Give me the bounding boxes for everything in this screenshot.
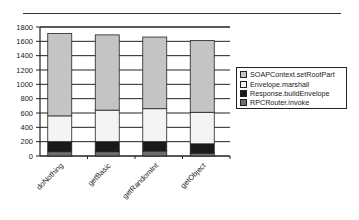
x-category-label: getRandomInt xyxy=(120,160,160,200)
y-tick-label: 1000 xyxy=(16,80,33,89)
x-category-label: getObject xyxy=(179,160,209,190)
legend-swatch-icon xyxy=(240,71,247,78)
y-tick-label: 1800 xyxy=(16,23,33,32)
y-tick-label: 1400 xyxy=(16,51,33,60)
bar-segment xyxy=(190,144,214,153)
bar-segment xyxy=(95,142,119,152)
y-tick-label: 1200 xyxy=(16,66,33,75)
bar-segment xyxy=(48,116,72,142)
y-tick-label: 400 xyxy=(20,123,33,132)
legend-label: SOAPContext.setRootPart xyxy=(250,70,335,79)
legend-item-soapcontext: SOAPContext.setRootPart xyxy=(240,70,343,79)
bar-segment xyxy=(143,151,167,156)
bar-segment xyxy=(190,112,214,144)
bar-segment xyxy=(190,153,214,156)
bar-segment xyxy=(95,35,119,110)
bar-segment xyxy=(143,142,167,151)
bar-segment xyxy=(48,142,72,152)
stacked-bar-chart: 020040060080010001200140016001800doNothi… xyxy=(0,0,359,220)
bar-segment xyxy=(143,109,167,142)
bar-segment xyxy=(48,152,72,156)
x-category-label: doNothing xyxy=(35,161,66,192)
y-tick-label: 1600 xyxy=(16,37,33,46)
legend-swatch-icon xyxy=(240,81,247,88)
bar-segment xyxy=(190,41,214,113)
bar-segment xyxy=(95,110,119,142)
y-tick-label: 0 xyxy=(29,152,33,161)
legend-label: Response.buildEnvelope xyxy=(250,89,330,98)
y-tick-label: 600 xyxy=(20,109,33,118)
y-tick-label: 800 xyxy=(20,94,33,103)
legend-label: RPCRouter.invoke xyxy=(250,98,309,107)
legend-item-response-buildenvelope: Response.buildEnvelope xyxy=(240,89,343,98)
legend-swatch-icon xyxy=(240,99,247,106)
legend-label: Envelope.marshall xyxy=(250,80,309,89)
bar-segment xyxy=(95,152,119,156)
legend-swatch-icon xyxy=(240,90,247,97)
bar-segment xyxy=(143,37,167,109)
x-category-label: getBasic xyxy=(86,161,113,188)
legend-item-rpcrouter-invoke: RPCRouter.invoke xyxy=(240,98,343,107)
y-tick-label: 200 xyxy=(20,137,33,146)
legend-item-envelope-marshall: Envelope.marshall xyxy=(240,79,343,88)
legend: SOAPContext.setRootPart Envelope.marshal… xyxy=(236,67,347,109)
bar-segment xyxy=(48,33,72,115)
